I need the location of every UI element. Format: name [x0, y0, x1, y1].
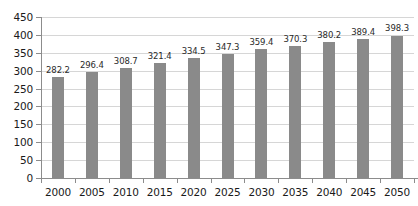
- x-axis-tick: [312, 179, 313, 183]
- bar-value-label: 282.2: [42, 66, 74, 75]
- y-axis-tick: [36, 124, 41, 125]
- y-axis-tick: [36, 89, 41, 90]
- bar-value-label: 347.3: [212, 43, 244, 52]
- y-axis-tick-label: 50: [0, 155, 33, 166]
- y-axis-tick: [36, 17, 41, 18]
- bar: [357, 39, 369, 178]
- bar: [255, 49, 267, 178]
- y-axis-tick: [36, 160, 41, 161]
- x-axis-tick: [143, 179, 144, 183]
- y-axis-tick-label: 250: [0, 84, 33, 95]
- x-axis-tick: [211, 179, 212, 183]
- x-axis-tick: [380, 179, 381, 183]
- x-axis-line: [41, 178, 418, 179]
- y-axis-tick-label: 350: [0, 48, 33, 59]
- bar: [154, 63, 166, 178]
- gridline: [41, 17, 414, 18]
- x-axis-tick: [41, 179, 42, 183]
- x-axis-tick: [75, 179, 76, 183]
- y-axis-line: [41, 17, 42, 179]
- bar: [289, 46, 301, 178]
- x-axis-tick: [109, 179, 110, 183]
- bar: [52, 77, 64, 178]
- y-axis-tick-label: 200: [0, 101, 33, 112]
- bar-value-label: 359.4: [245, 38, 277, 47]
- bar-value-label: 321.4: [144, 52, 176, 61]
- bar-value-label: 380.2: [313, 31, 345, 40]
- bar-chart: 050100150200250300350400450 200020052010…: [0, 0, 418, 206]
- y-axis-tick: [36, 142, 41, 143]
- bar: [323, 42, 335, 178]
- y-axis-tick: [36, 35, 41, 36]
- bar-value-label: 398.3: [381, 24, 413, 33]
- x-axis-tick: [177, 179, 178, 183]
- bar: [391, 36, 403, 179]
- bar-value-label: 370.3: [279, 35, 311, 44]
- x-axis-tick: [414, 179, 415, 183]
- x-axis-tick: [278, 179, 279, 183]
- x-axis-tick: [244, 179, 245, 183]
- bar: [120, 68, 132, 178]
- y-axis-tick-label: 150: [0, 119, 33, 130]
- x-axis-tick: [346, 179, 347, 183]
- bar-value-label: 334.5: [178, 47, 210, 56]
- bar: [222, 54, 234, 178]
- bar-value-label: 308.7: [110, 57, 142, 66]
- y-axis-tick: [36, 106, 41, 107]
- y-axis-tick-label: 450: [0, 12, 33, 23]
- y-axis-tick: [36, 53, 41, 54]
- bar: [86, 72, 98, 178]
- y-axis-tick-label: 0: [0, 173, 33, 184]
- x-axis-tick-label: 2050: [377, 186, 417, 198]
- y-axis-tick-label: 300: [0, 66, 33, 77]
- y-axis-tick-label: 100: [0, 137, 33, 148]
- bar-value-label: 389.4: [347, 28, 379, 37]
- bar: [188, 58, 200, 178]
- bar-value-label: 296.4: [76, 61, 108, 70]
- y-axis-tick-label: 400: [0, 30, 33, 41]
- y-axis-tick: [36, 71, 41, 72]
